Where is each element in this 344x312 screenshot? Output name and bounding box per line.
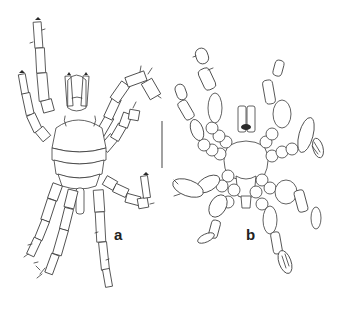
specimen-b-leg-right-1 — [260, 59, 291, 148]
panel-label-b: b — [246, 227, 255, 242]
specimen-a-body — [52, 116, 106, 189]
figure: a b — [0, 0, 344, 312]
specimen-a-chelicerae — [65, 72, 89, 111]
specimen-a-leg-right-4 — [102, 172, 154, 209]
panel-label-a: a — [114, 227, 122, 242]
specimen-illustrations — [0, 0, 344, 312]
specimen-a-leg-left-1 — [30, 17, 54, 113]
specimen-a — [18, 17, 161, 287]
specimen-b-chelicerae — [238, 106, 255, 132]
specimen-a-leg-right-3 — [93, 190, 112, 288]
